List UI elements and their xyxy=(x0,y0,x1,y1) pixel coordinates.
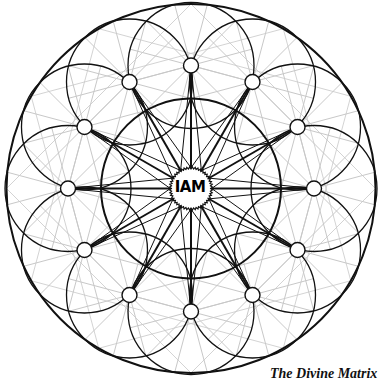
star-line xyxy=(84,127,171,189)
node xyxy=(77,120,92,135)
gray-ray xyxy=(269,144,314,189)
gray-ray xyxy=(298,66,314,127)
gray-ray xyxy=(68,250,84,311)
gray-chord xyxy=(191,189,376,374)
star-line xyxy=(211,188,298,250)
gray-ray xyxy=(253,234,269,295)
gray-ray xyxy=(191,295,252,311)
node xyxy=(290,243,305,258)
star-line xyxy=(191,206,201,312)
gray-ray xyxy=(85,37,130,82)
node xyxy=(122,74,137,89)
gray-ray xyxy=(175,5,191,66)
node xyxy=(61,181,76,196)
gray-ray xyxy=(68,189,129,205)
gray-ray xyxy=(191,251,207,312)
gray-ray xyxy=(85,295,130,340)
gray-ray xyxy=(191,267,236,312)
gray-ray xyxy=(146,66,191,111)
node xyxy=(184,58,199,73)
gray-ray xyxy=(253,250,298,295)
gray-ray xyxy=(7,172,68,188)
gray-ray xyxy=(298,250,343,295)
gray-ray xyxy=(192,66,253,82)
gray-chord xyxy=(7,189,192,374)
gray-ray xyxy=(253,82,298,127)
gray-ray xyxy=(191,66,236,111)
gray-ray xyxy=(298,189,314,250)
gray-ray xyxy=(130,66,191,82)
node xyxy=(290,120,305,135)
gray-ray xyxy=(84,111,145,127)
gray-ray xyxy=(253,295,298,340)
gray-ray xyxy=(68,127,84,188)
gray-ray xyxy=(191,49,252,65)
gray-ray xyxy=(253,82,269,143)
gray-ray xyxy=(68,189,113,234)
gray-ray xyxy=(314,172,375,188)
gray-ray xyxy=(298,128,314,189)
gray-ray xyxy=(253,295,314,311)
gray-ray xyxy=(314,128,330,189)
gray-ray xyxy=(69,66,130,82)
star-line xyxy=(130,208,192,295)
gray-ray xyxy=(113,234,129,295)
gray-ray xyxy=(52,128,68,189)
node xyxy=(307,181,322,196)
gray-ray xyxy=(314,189,375,205)
gray-ray xyxy=(130,49,191,65)
gray-ray xyxy=(130,295,191,311)
gray-chord xyxy=(191,4,376,189)
diagram-caption: The Divine Matrix xyxy=(270,366,377,382)
gray-ray xyxy=(52,189,68,250)
gray-ray xyxy=(113,82,129,143)
star-line xyxy=(130,82,192,169)
gray-ray xyxy=(237,250,298,266)
gray-ray xyxy=(130,312,191,328)
node xyxy=(122,288,137,303)
gray-ray xyxy=(298,82,343,127)
star-line xyxy=(68,189,174,199)
gray-ray xyxy=(314,189,330,250)
gray-ray xyxy=(191,312,207,373)
gray-ray xyxy=(84,250,129,295)
star-line xyxy=(208,178,314,188)
gray-ray xyxy=(68,144,113,189)
gray-ray xyxy=(237,111,298,127)
gray-ray xyxy=(146,267,191,312)
gray-ray xyxy=(68,189,84,250)
gray-ray xyxy=(7,189,68,205)
gray-ray xyxy=(269,189,314,234)
center-label: IAM xyxy=(170,176,210,198)
star-line xyxy=(190,82,252,169)
gray-ray xyxy=(40,250,85,295)
gray-ray xyxy=(40,82,85,127)
node xyxy=(245,288,260,303)
gray-ray xyxy=(253,37,298,82)
gray-ray xyxy=(85,82,130,127)
node xyxy=(184,304,199,319)
gray-ray xyxy=(175,312,191,373)
gray-ray xyxy=(253,172,314,188)
node xyxy=(245,74,260,89)
node xyxy=(77,243,92,258)
gray-ray xyxy=(191,5,207,66)
gray-ray xyxy=(84,250,145,266)
gray-chord xyxy=(7,4,192,189)
gray-ray xyxy=(191,312,252,328)
